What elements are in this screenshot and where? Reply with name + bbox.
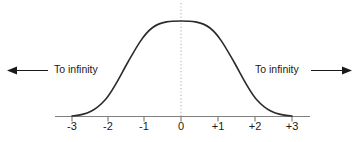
annotation-to-infinity-left: To infinity [54,64,98,75]
x-tick-label-minus-3: -3 [60,121,84,132]
x-tick-label-plus-3: +3 [280,121,304,132]
x-tick-label-zero: 0 [169,121,193,132]
arrow-left-icon [7,67,48,75]
arrow-right-icon [311,67,352,75]
annotation-to-infinity-right: To infinity [255,64,299,75]
x-tick-label-minus-1: -1 [132,121,156,132]
x-tick-label-minus-2: -2 [96,121,120,132]
x-tick-label-plus-1: +1 [206,121,230,132]
bell-curve-figure: To infinity To infinity -3 -2 -1 0 +1 +2… [0,0,359,142]
x-tick-label-plus-2: +2 [243,121,267,132]
